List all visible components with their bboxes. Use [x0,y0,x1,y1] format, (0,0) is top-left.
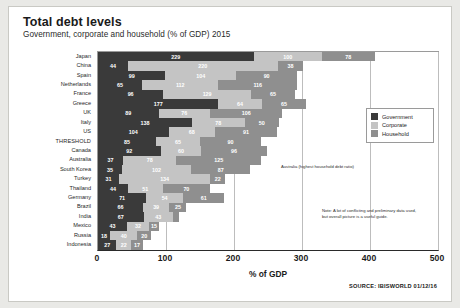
bar-value-label: 66 [117,204,123,210]
bar-segment-corporate: 65 [156,137,200,146]
legend-item-household: Household [371,130,429,137]
bar-row: 3778125 [98,156,438,165]
category-label-threshold: THRESHOLD [9,136,95,145]
x-tick-400: 400 [362,253,376,263]
chart-subtitle: Government, corporate and household (% o… [23,30,230,39]
bar-segment-government: 104 [98,127,169,136]
chart-title: Total debt levels [23,15,122,29]
bar-row: 715461 [98,193,438,202]
bar-segment-government: 67 [98,212,144,221]
plot-area: 2291007844220389910490651121169612965177… [97,51,439,251]
bar-segment-government: 138 [98,118,192,127]
bar-value-label: 129 [203,91,212,97]
category-label-greece: Greece [9,98,95,107]
bar-value-label: 68 [189,129,195,135]
bar-row: 22910078 [98,52,438,61]
bar-segment-household: 38 [278,61,304,70]
category-label-russia: Russia [9,230,95,239]
category-label-thailand: Thailand [9,183,95,192]
category-label-mexico: Mexico [9,221,95,230]
bar-segment-household: 15 [149,222,159,231]
bar-segment-government: 44 [98,61,128,70]
bar-segment-government: 35 [98,165,122,174]
bar-value-label: 50 [259,120,265,126]
bar-segment-household: 90 [236,71,297,80]
legend-label: Corporate [382,122,407,128]
bar-segment-government: 65 [98,80,142,89]
bar-segment-household: 25 [169,203,186,212]
gridline-500 [438,52,439,250]
bar-segment-household: 78 [322,52,375,61]
bar-value-label: 134 [160,176,169,182]
bar-value-label: 78 [147,157,153,163]
bar-row: 433215 [98,222,438,231]
bar-value-label: 96 [128,91,134,97]
bar-value-label: 138 [140,120,149,126]
bar-row: 9612965 [98,90,438,99]
bar-segment-household: 65 [262,99,306,108]
bar-segment-corporate: 54 [146,193,183,202]
bar-row: 184020 [98,231,438,240]
x-tick-500: 500 [430,253,444,263]
bar-value-label: 116 [253,82,262,88]
bar-segment-household: 91 [215,127,277,136]
bar-value-label: 54 [162,195,168,201]
legend-item-corporate: Corporate [371,122,429,129]
bar-segment-household: 22 [210,174,225,183]
bar-segment-government: 31 [98,174,119,183]
category-label-japan: Japan [9,51,95,60]
bar-row: 3113422 [98,174,438,183]
bar-segment-government: 44 [98,184,128,193]
bar-segment-corporate: 68 [169,127,215,136]
bar-segment-corporate: 60 [161,146,202,155]
bar-segment-corporate: 102 [122,165,191,174]
x-tick-300: 300 [294,253,308,263]
bar-segment-corporate: 64 [218,99,262,108]
bar-segment-government: 66 [98,203,143,212]
bar-value-label: 90 [264,73,270,79]
bar-value-label: 96 [231,148,237,154]
bar-row: 926096 [98,146,438,155]
chart-figure: Total debt levels Government, corporate … [8,6,452,302]
bar-value-label: 90 [228,139,234,145]
x-tick-200: 200 [226,253,240,263]
bar-segment-government: 18 [98,231,110,240]
bar-segment-government: 27 [98,240,116,249]
bar-value-label: 85 [124,139,130,145]
category-label-india: India [9,211,95,220]
category-label-uk: UK [9,108,95,117]
bar-value-label: 78 [345,54,351,60]
bar-value-label: 15 [151,223,157,229]
bar-value-label: 177 [154,101,163,107]
bar-value-label: 51 [142,186,148,192]
category-label-germany: Germany [9,192,95,201]
bar-segment-household: 65 [251,90,295,99]
bar-value-label: 92 [126,148,132,154]
bar-value-label: 220 [198,63,207,69]
bar-value-label: 43 [110,223,116,229]
bar-segment-corporate: 76 [159,109,211,118]
bar-value-label: 61 [201,195,207,201]
bar-segment-corporate: 78 [123,156,176,165]
bar-segment-government: 99 [98,71,165,80]
bar-row: 272217 [98,240,438,249]
bar-value-label: 22 [121,242,127,248]
bar-segment-household: 125 [176,156,261,165]
category-label-south-korea: South Korea [9,164,95,173]
category-label-canada: Canada [9,145,95,154]
bar-segment-household: 90 [200,137,261,146]
bar-value-label: 99 [129,73,135,79]
bar-value-label: 64 [237,101,243,107]
bar-segment-government: 96 [98,90,163,99]
bar-segment-corporate: 220 [128,61,278,70]
bar-value-label: 70 [183,186,189,192]
bar-value-label: 65 [270,91,276,97]
x-tick-100: 100 [158,253,172,263]
legend-label: Government [382,114,413,120]
bar-segment-government: 177 [98,99,218,108]
bar-value-label: 20 [141,233,147,239]
legend-swatch-government [371,113,378,120]
bar-segment-corporate: 40 [110,231,137,240]
bar-value-label: 65 [281,101,287,107]
legend-label: Household [382,131,409,137]
